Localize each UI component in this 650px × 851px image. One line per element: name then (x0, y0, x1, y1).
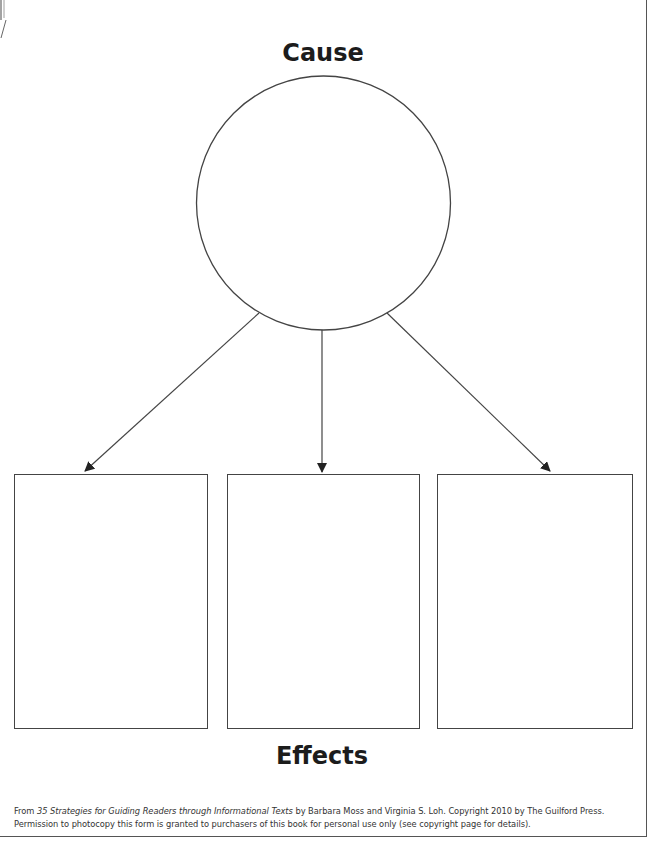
effect-box-1[interactable] (14, 474, 208, 729)
copyright-footer: From 35 Strategies for Guiding Readers t… (14, 805, 639, 831)
footer-book-title: 35 Strategies for Guiding Readers throug… (37, 806, 293, 816)
cause-circle[interactable] (197, 76, 451, 330)
effect-box-3[interactable] (437, 474, 633, 729)
footer-prefix: From (14, 806, 37, 816)
effect-box-2[interactable] (227, 474, 420, 729)
effects-heading: Effects (0, 742, 647, 770)
arrow-right (387, 313, 550, 471)
arrow-left (85, 313, 259, 471)
